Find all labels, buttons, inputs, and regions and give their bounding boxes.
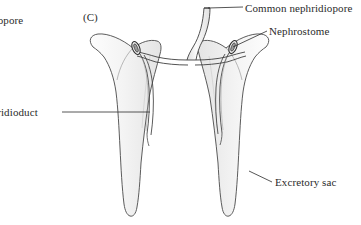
leader-common-nephridiopore — [208, 7, 243, 8]
left-duct-terminal — [147, 134, 149, 146]
right-excretory-sac — [198, 34, 269, 216]
label-common-nephridiopore: Common nephridiopore — [245, 2, 352, 14]
nephridium-figure: (C) diopore phridioduct Common nephridio… — [0, 0, 361, 225]
label-nephrostome: Nephrostome — [269, 25, 329, 37]
panel-label: (C) — [83, 11, 98, 23]
label-excretory-sac: Excretory sac — [275, 176, 336, 188]
left-sac-outline — [90, 34, 161, 216]
right-sac-outline — [198, 34, 269, 216]
label-nephridiopore: diopore — [0, 14, 23, 26]
label-nephridioduct: phridioduct — [0, 106, 38, 118]
left-excretory-sac — [90, 34, 161, 216]
leader-excretory-sac — [249, 171, 272, 182]
